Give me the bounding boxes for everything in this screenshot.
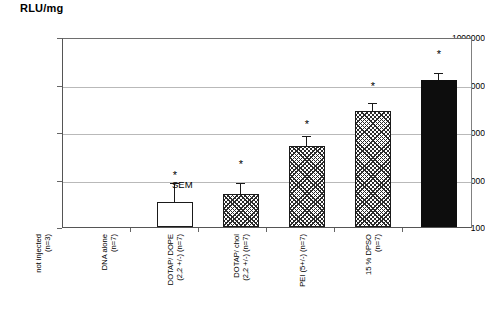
significance-marker: * [433,49,445,60]
gridline [63,182,471,183]
significance-marker: * [367,81,379,92]
error-bar-cap [368,103,377,104]
x-tick-mark [130,228,131,232]
error-bar-cap [236,183,245,184]
x-label-line1: PEI (5+/-) (n=7) [298,234,307,312]
bar-dna-alone [157,202,193,227]
bar-dotap-dope [223,194,259,227]
x-label-line2: (2,2 +/-) (n=7) [241,234,250,312]
x-label-line1: not injected [34,234,43,312]
x-label-line1: DNA alone [100,234,109,312]
error-bar [306,137,307,146]
x-tick-mark [334,228,335,232]
chart-title: RLU/mg [20,2,63,14]
error-bar [438,74,439,80]
x-axis-label-dotap-dope: DOTAP/ DOPE (2,2 +/-) (n=7) [166,234,184,312]
error-bar-cap [434,73,443,74]
plot-area: * * * * * [62,38,472,228]
x-label-line2: (n=7) [373,234,382,312]
x-tick-mark [402,228,403,232]
bar-dotap-chol [289,146,325,227]
significance-marker: * [235,159,247,170]
x-label-line2: (2,2 +/-) (n=7) [175,234,184,312]
sem-annotation: SEM [172,180,193,190]
x-axis-label-dpso: 15 % DPSO (n=7) [364,234,382,312]
error-bar [372,104,373,111]
x-tick-mark [266,228,267,232]
error-bar-cap [302,136,311,137]
bar-pei [355,111,391,227]
significance-marker: * [301,119,313,130]
error-bar [240,184,241,194]
x-axis-label-not-injected: not injected (n=3) [34,234,52,312]
x-axis-label-dna-alone: DNA alone (n=7) [100,234,118,312]
x-axis-label-pei: PEI (5+/-) (n=7) [298,234,307,312]
x-tick-mark [198,228,199,232]
x-label-line2: (n=3) [43,234,52,312]
gridline [63,87,471,88]
gridline [63,134,471,135]
x-label-line1: DOTAP/ chol [232,234,241,312]
bar-dpso [421,80,457,227]
x-label-line1: DOTAP/ DOPE [166,234,175,312]
x-axis-label-dotap-chol: DOTAP/ chol (2,2 +/-) (n=7) [232,234,250,312]
x-label-line2: (n=7) [109,234,118,312]
chart-container: RLU/mg 1000000 100000 10000 1000 100 [0,0,485,315]
x-label-line1: 15 % DPSO [364,234,373,312]
y-tick-mark [57,228,62,229]
